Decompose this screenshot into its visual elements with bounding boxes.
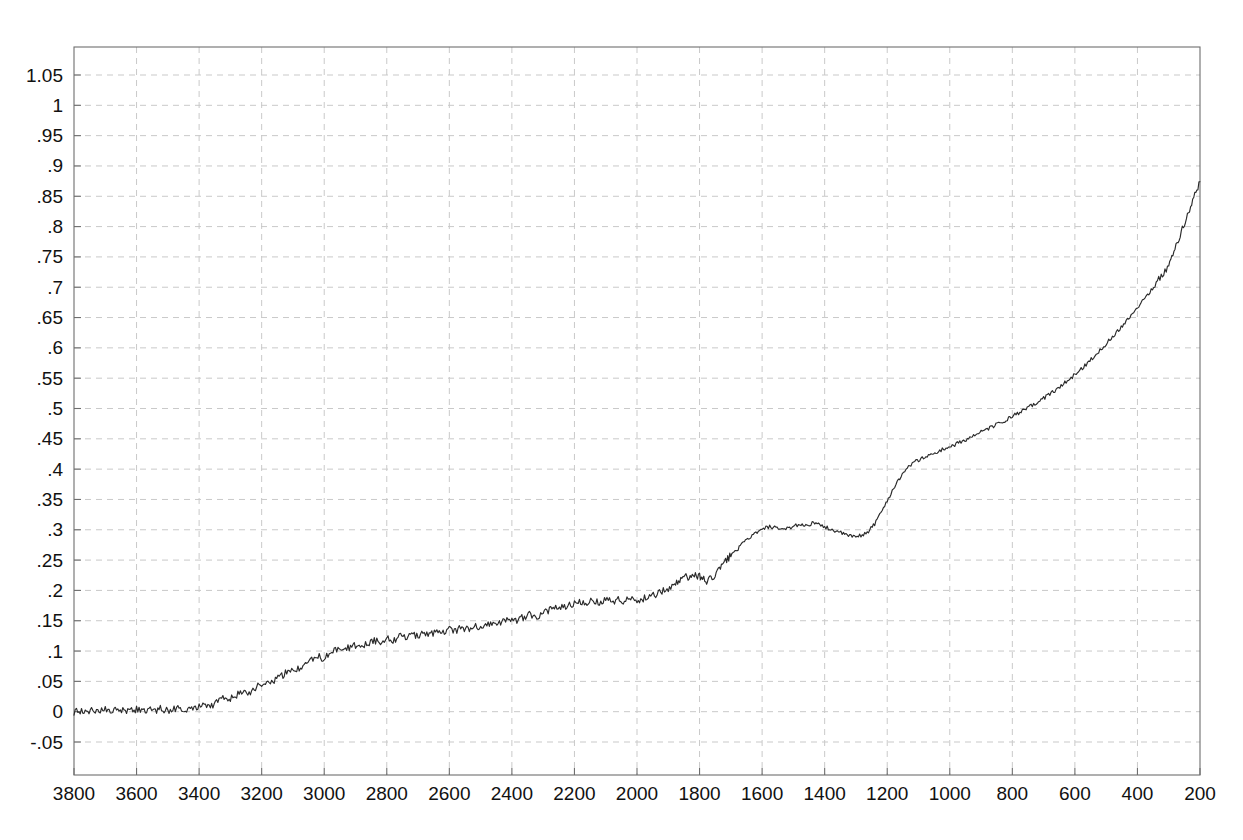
y-axis-tick-label: .95 [37, 125, 63, 146]
y-axis-tick-label: 1.05 [26, 65, 63, 86]
y-axis-tick-label: .6 [47, 337, 63, 358]
y-axis-tick-label: .7 [47, 277, 63, 298]
x-axis-tick-label: 1000 [929, 783, 971, 804]
y-axis-tick-label: .5 [47, 398, 63, 419]
x-axis-tick-label: 1200 [866, 783, 908, 804]
x-axis-tick-label: 2800 [366, 783, 408, 804]
y-axis-tick-label: .65 [37, 307, 63, 328]
y-axis-tick-label: .85 [37, 186, 63, 207]
x-axis-tick-label: 2200 [553, 783, 595, 804]
x-axis-tick-label: 1400 [804, 783, 846, 804]
y-axis-tick-label: .05 [37, 671, 63, 692]
x-axis-tick-label: 2600 [428, 783, 470, 804]
y-axis-tick-label: .45 [37, 428, 63, 449]
x-axis-tick-label: 800 [996, 783, 1028, 804]
y-axis-tick-label: .15 [37, 610, 63, 631]
y-axis-tick-label: .9 [47, 155, 63, 176]
x-axis-tick-label: 1600 [741, 783, 783, 804]
x-axis-tick-label: 600 [1059, 783, 1091, 804]
x-axis-tick-label: 2400 [491, 783, 533, 804]
y-axis-tick-label: .2 [47, 580, 63, 601]
y-axis-tick-label: .1 [47, 641, 63, 662]
x-axis-tick-label: 3600 [115, 783, 157, 804]
x-axis-tick-label: 1800 [678, 783, 720, 804]
x-axis-tick-label: 3200 [241, 783, 283, 804]
figure-background [0, 0, 1243, 840]
x-axis-tick-label: 3400 [178, 783, 220, 804]
y-axis-tick-label: .25 [37, 550, 63, 571]
y-axis-tick-label: .3 [47, 519, 63, 540]
x-axis-tick-label: 200 [1184, 783, 1216, 804]
y-axis-tick-label: 1 [52, 95, 63, 116]
x-axis-tick-label: 3000 [303, 783, 345, 804]
y-axis-tick-label: 0 [52, 701, 63, 722]
y-axis-tick-label: .55 [37, 368, 63, 389]
y-axis-tick-label: .35 [37, 489, 63, 510]
x-axis-tick-label: 3800 [53, 783, 95, 804]
x-axis-tick-label: 2000 [616, 783, 658, 804]
y-axis-tick-label: .8 [47, 216, 63, 237]
x-axis-tick-label: 400 [1122, 783, 1154, 804]
y-axis-tick-label: .75 [37, 246, 63, 267]
spectrum-figure: 1.051.95.9.85.8.75.7.65.6.55.5.45.4.35.3… [0, 0, 1243, 840]
plot-svg: 1.051.95.9.85.8.75.7.65.6.55.5.45.4.35.3… [0, 0, 1243, 840]
y-axis-tick-label: -.05 [30, 732, 63, 753]
y-axis-tick-label: .4 [47, 459, 63, 480]
